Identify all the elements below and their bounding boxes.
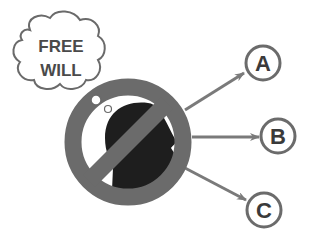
arrow-to-a bbox=[185, 73, 244, 110]
option-a-label: A bbox=[255, 51, 271, 76]
bubble-text-line1: FREE bbox=[38, 37, 83, 56]
option-c-label: C bbox=[256, 198, 272, 223]
thought-bubble: FREE WILL bbox=[13, 11, 111, 112]
option-b: B bbox=[261, 119, 295, 153]
option-a: A bbox=[246, 46, 280, 80]
option-c: C bbox=[247, 193, 281, 227]
bubble-dot-large bbox=[91, 95, 101, 105]
arrows bbox=[185, 73, 259, 200]
option-b-label: B bbox=[270, 124, 286, 149]
bubble-text-line2: WILL bbox=[40, 61, 82, 80]
bubble-dot-small bbox=[105, 106, 112, 113]
arrow-to-c bbox=[185, 168, 246, 200]
free-will-diagram: FREE WILL A B C bbox=[0, 0, 327, 247]
